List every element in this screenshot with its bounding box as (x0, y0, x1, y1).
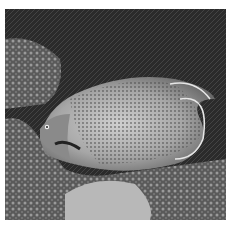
photo: Grayscale photograph of a semicircle ang… (5, 9, 226, 220)
angelfish-photo (5, 9, 226, 220)
